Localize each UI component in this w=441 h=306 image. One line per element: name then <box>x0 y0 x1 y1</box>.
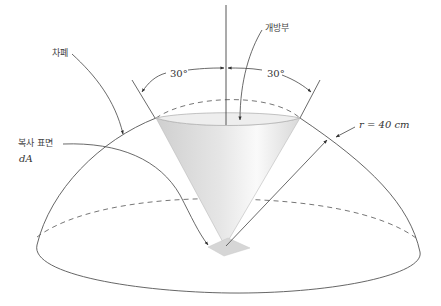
radius-label: r = 40 cm <box>359 120 410 130</box>
opening-label: 개방부 <box>265 24 289 33</box>
left-angle-boundary <box>132 80 155 118</box>
diagram-graphics <box>0 0 441 306</box>
angle-arc-left <box>142 73 166 92</box>
area-element-label: dA <box>19 154 33 164</box>
area-element-patch <box>208 238 250 256</box>
shield-leader <box>72 54 123 134</box>
shield-label: 차폐 <box>52 49 68 58</box>
view-cone <box>156 118 300 246</box>
angle-left-label: 30° <box>170 69 188 79</box>
angle-right-label: 30° <box>267 69 285 79</box>
angle-arc-right-inner <box>228 68 262 70</box>
angle-arc-left-inner <box>188 68 224 70</box>
angle-arc-right <box>282 75 311 92</box>
radius-pointer <box>336 127 355 137</box>
radiation-shield-diagram: 차폐 개방부 30° 30° r = 40 cm 복사 표면 dA <box>0 0 441 306</box>
opening-leader <box>240 30 262 120</box>
radiating-surface-label: 복사 표면 <box>18 139 53 148</box>
